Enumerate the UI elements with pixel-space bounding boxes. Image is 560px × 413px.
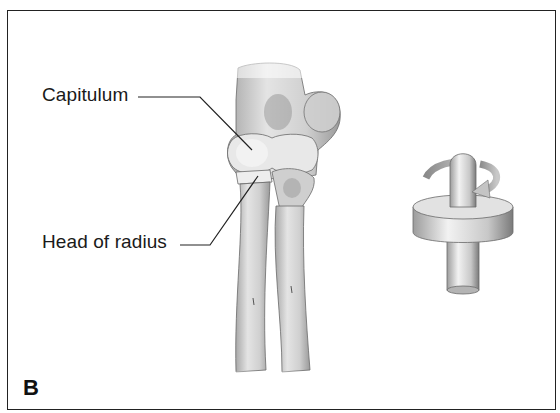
capitulum-label: Capitulum bbox=[42, 84, 128, 106]
pivot-joint-model bbox=[413, 154, 513, 294]
panel-letter: B bbox=[23, 375, 39, 401]
head-of-radius-label: Head of radius bbox=[42, 231, 167, 253]
figure-illustration bbox=[0, 0, 560, 413]
elbow-bones-illustration bbox=[225, 55, 345, 375]
